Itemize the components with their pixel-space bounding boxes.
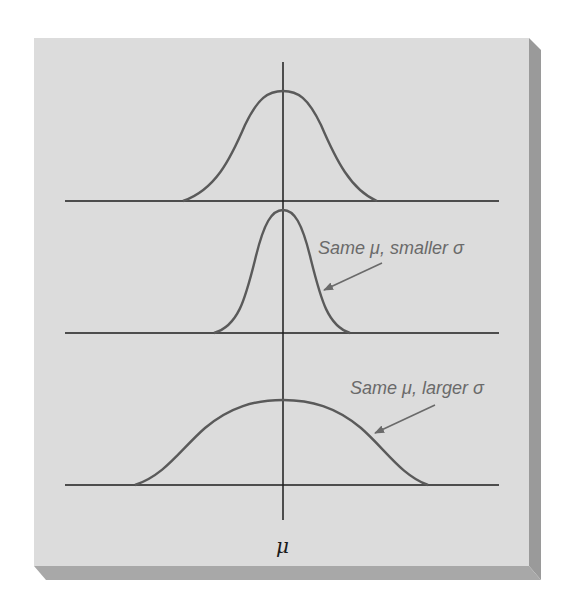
panel-background <box>34 38 529 566</box>
annotation-larger-sigma: Same μ, larger σ <box>350 378 484 399</box>
mu-axis-label: μ <box>276 534 289 558</box>
panel-bevel-right <box>529 38 541 580</box>
annotation-smaller-sigma: Same μ, smaller σ <box>318 238 464 259</box>
diagram-canvas <box>0 0 566 610</box>
normal-distribution-figure: Same μ, smaller σ Same μ, larger σ μ <box>0 0 566 610</box>
panel-bevel-bottom <box>34 566 541 580</box>
